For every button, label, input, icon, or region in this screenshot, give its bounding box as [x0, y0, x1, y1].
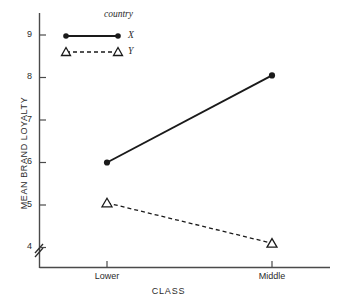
- series-x-point-lower: [104, 159, 110, 165]
- y-tick-marks: [40, 35, 47, 248]
- series-y-point-middle: [267, 239, 277, 248]
- x-tick-label-middle: Middle: [242, 271, 302, 281]
- legend-label-y: Y: [128, 46, 133, 56]
- x-axis-title: CLASS: [0, 286, 337, 296]
- x-tick-marks: [107, 261, 272, 268]
- series-x-segment: [107, 75, 272, 162]
- x-tick-label-lower: Lower: [77, 271, 137, 281]
- legend-label-x: X: [128, 30, 134, 40]
- legend-sample-x-marker-right: [115, 33, 121, 39]
- series-y-point-lower: [102, 198, 112, 207]
- legend-title: country: [104, 9, 133, 19]
- line-chart-canvas: [0, 0, 337, 303]
- legend-sample-y-marker-right: [114, 48, 123, 56]
- y-tick-label-9: 9: [18, 29, 32, 39]
- y-tick-label-4: 4: [18, 241, 32, 251]
- y-axis-title: MEAN BRAND LOYALTY: [19, 73, 29, 233]
- chart-figure: 9 8 7 6 5 4 Lower Middle MEAN BRAND LOYA…: [0, 0, 337, 303]
- series-y-segment: [107, 203, 272, 243]
- series-x-point-middle: [269, 72, 275, 78]
- legend-sample-x-marker-left: [63, 33, 69, 39]
